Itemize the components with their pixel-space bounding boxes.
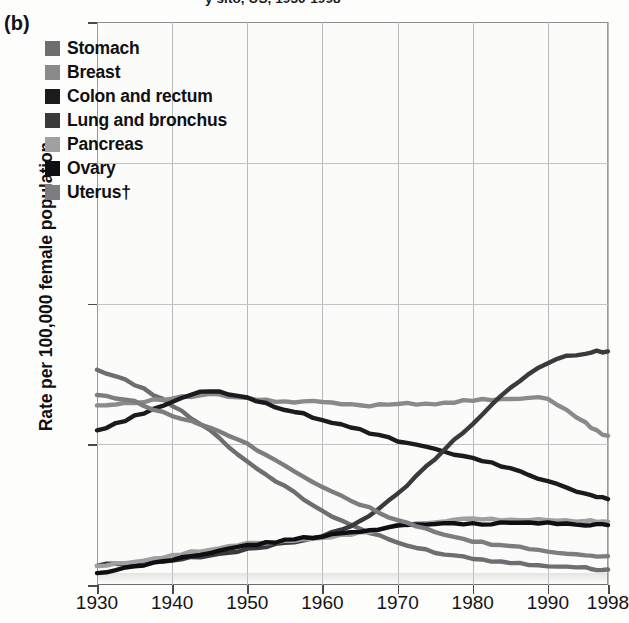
legend-swatch-icon [45, 113, 60, 128]
legend-item[interactable]: Colon and rectum [45, 85, 227, 108]
y-tick-mark [88, 585, 97, 587]
figure-panel-b: y sito, US, 1930-1998 (b) Rate per 100,0… [0, 0, 629, 623]
chart-title: y sito, US, 1930-1998 [205, 0, 625, 7]
y-tick-mark [88, 22, 97, 24]
legend-item-label: Pancreas [67, 134, 143, 155]
legend-item-label: Stomach [67, 38, 140, 59]
y-tick-mark [88, 444, 97, 446]
legend-item-label: Uterus† [67, 182, 131, 203]
legend-item-label: Colon and rectum [67, 86, 213, 107]
legend-item-label: Breast [67, 62, 120, 83]
legend-swatch-icon [45, 41, 60, 56]
x-tick-label: 1998 [563, 592, 629, 614]
legend-item-label: Lung and bronchus [67, 110, 227, 131]
legend-item[interactable]: Ovary [45, 157, 227, 180]
legend-item[interactable]: Breast [45, 61, 227, 84]
legend-item[interactable]: Pancreas [45, 133, 227, 156]
legend-swatch-icon [45, 137, 60, 152]
legend-item-label: Ovary [67, 158, 116, 179]
legend-swatch-icon [45, 65, 60, 80]
legend-item[interactable]: Stomach [45, 37, 227, 60]
legend-swatch-icon [45, 89, 60, 104]
chart-legend: StomachBreastColon and rectumLung and br… [45, 37, 227, 204]
legend-item[interactable]: Uterus† [45, 181, 227, 204]
y-tick-mark [88, 304, 97, 306]
legend-swatch-icon [45, 185, 60, 200]
panel-label: (b) [4, 12, 30, 35]
legend-swatch-icon [45, 161, 60, 176]
legend-item[interactable]: Lung and bronchus [45, 109, 227, 132]
